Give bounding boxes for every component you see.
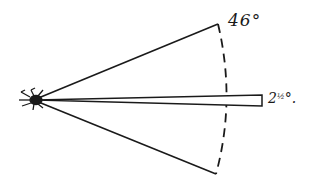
narrow-angle-fraction: ½ — [277, 92, 285, 101]
wide-cone-upper-edge — [36, 24, 218, 99]
narrow-angle-label: 2½°. — [268, 90, 296, 106]
narrow-angle-whole: 2 — [268, 90, 277, 106]
wide-cone-lower-edge — [36, 101, 216, 174]
spider-icon — [19, 88, 43, 110]
narrow-cone — [36, 95, 262, 106]
wide-angle-label: 46° — [228, 10, 261, 30]
narrow-angle-suffix: °. — [285, 90, 296, 106]
